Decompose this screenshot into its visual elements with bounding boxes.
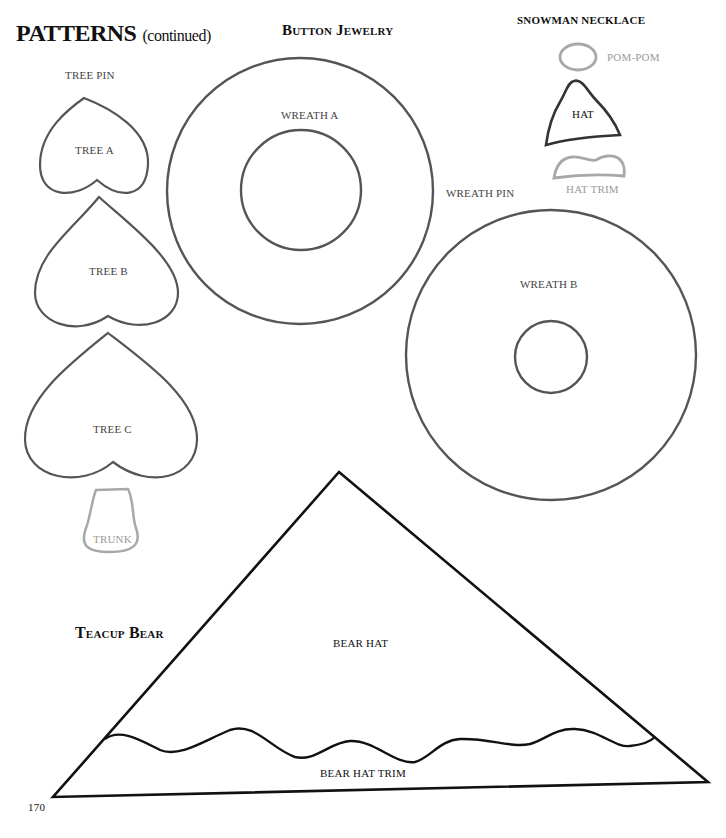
label-wreath-pin: WREATH PIN xyxy=(446,187,514,199)
wreath-b-outer xyxy=(406,210,696,500)
pom-pom-outline xyxy=(560,44,596,70)
label-trunk: TRUNK xyxy=(93,533,132,545)
wreath-b-inner xyxy=(515,321,587,393)
label-pom-pom: POM-POM xyxy=(607,51,660,63)
label-bear-hat: BEAR HAT xyxy=(333,637,388,649)
label-tree-a: TREE A xyxy=(75,144,114,156)
label-hat: HAT xyxy=(572,108,594,120)
tree-c-outline xyxy=(25,333,197,477)
wreath-a-outer xyxy=(167,58,433,324)
bear-hat-trim-line xyxy=(105,728,655,762)
wreath-a-inner xyxy=(241,130,361,250)
page-number: 170 xyxy=(28,801,45,813)
pattern-outlines xyxy=(0,0,726,838)
label-bear-hat-trim: BEAR HAT TRIM xyxy=(320,767,406,779)
section-teacup-bear: Teacup Bear xyxy=(75,624,164,642)
section-snowman-necklace: SNOWMAN NECKLACE xyxy=(517,14,645,26)
label-tree-c: TREE C xyxy=(93,423,132,435)
section-button-jewelry: Button Jewelry xyxy=(282,22,394,39)
label-wreath-b: WREATH B xyxy=(520,278,578,290)
tree-b-outline xyxy=(35,197,178,326)
label-tree-pin: TREE PIN xyxy=(65,69,115,81)
label-wreath-a: WREATH A xyxy=(281,109,339,121)
hat-trim-outline xyxy=(554,156,624,178)
label-tree-b: TREE B xyxy=(89,265,128,277)
label-hat-trim: HAT TRIM xyxy=(566,183,619,195)
